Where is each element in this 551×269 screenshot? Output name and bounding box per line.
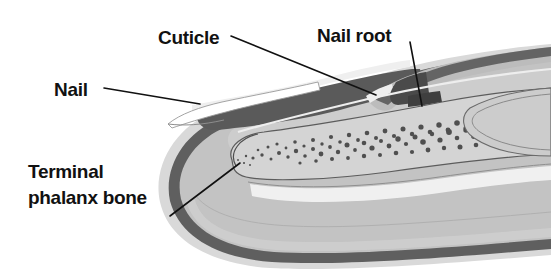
anatomy-diagram: Nail Cuticle Nail root Terminal phalanx … [0,0,551,269]
label-terminal-phalanx-bone-line1: Terminal [28,161,103,182]
nail-anatomy-figure: Nail Cuticle Nail root Terminal phalanx … [0,0,551,269]
label-cuticle: Cuticle [158,27,219,48]
label-nail: Nail [54,79,88,100]
label-nail-root: Nail root [317,25,392,46]
label-terminal-phalanx-bone-line2: phalanx bone [28,187,147,208]
